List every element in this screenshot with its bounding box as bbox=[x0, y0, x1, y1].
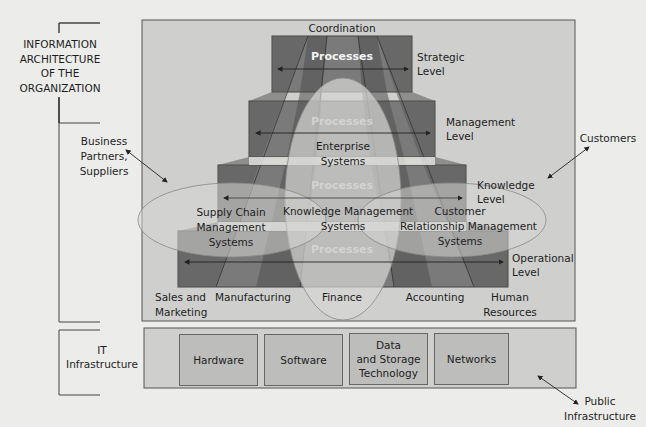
label-line: Knowledge bbox=[477, 178, 535, 192]
label-line: Operational bbox=[512, 251, 574, 265]
label-line: Systems bbox=[293, 154, 393, 169]
supply-chain-systems-label: Supply Chain Management Systems bbox=[181, 205, 281, 250]
label-line: Systems bbox=[181, 235, 281, 250]
public-infrastructure-label: Public Infrastructure bbox=[560, 394, 640, 424]
label-line: OF THE bbox=[8, 66, 112, 81]
infra-hardware: Hardware bbox=[179, 334, 258, 386]
label-line: Data bbox=[376, 338, 401, 352]
bracket-middle bbox=[59, 98, 100, 123]
functional-area-human-resources: Human Resources bbox=[475, 290, 545, 320]
label-line: Enterprise bbox=[293, 139, 393, 154]
coordination-label: Coordination bbox=[292, 21, 392, 35]
label-line: Networks bbox=[447, 352, 496, 366]
label-line: Level bbox=[512, 265, 574, 279]
label-line: Level bbox=[417, 64, 464, 78]
customers-label: Customers bbox=[578, 131, 638, 145]
label-line: Management bbox=[181, 220, 281, 235]
infra-networks: Networks bbox=[434, 333, 509, 385]
processes-label-operational: Processes bbox=[292, 243, 392, 257]
label-line: Infrastructure bbox=[560, 409, 640, 424]
processes-label-knowledge: Processes bbox=[292, 179, 392, 193]
label-line: Public bbox=[560, 394, 640, 409]
operational-level-label: Operational Level bbox=[512, 251, 574, 279]
label-line: Systems bbox=[283, 219, 403, 234]
label-line: Strategic bbox=[417, 50, 464, 64]
label-line: Suppliers bbox=[74, 164, 134, 179]
label-line: Relationship Management bbox=[400, 219, 520, 234]
label-line: Software bbox=[280, 353, 326, 367]
label-line: Sales and bbox=[155, 290, 207, 305]
label-line: Knowledge Management bbox=[283, 204, 403, 219]
label-line: Customer bbox=[400, 204, 520, 219]
label-line: ORGANIZATION bbox=[8, 81, 112, 96]
label-line: Partners, bbox=[74, 149, 134, 164]
functional-area-manufacturing: Manufacturing bbox=[208, 290, 298, 304]
strategic-level-label: Strategic Level bbox=[417, 50, 464, 78]
processes-label-strategic: Processes bbox=[292, 50, 392, 64]
label-line: Marketing bbox=[155, 305, 207, 320]
crm-systems-label: Customer Relationship Management Systems bbox=[400, 204, 520, 249]
label-line: Technology bbox=[359, 366, 418, 380]
functional-area-finance: Finance bbox=[312, 290, 372, 304]
label-line: Resources bbox=[475, 305, 545, 320]
label-line: Human bbox=[475, 290, 545, 305]
knowledge-management-systems-label: Knowledge Management Systems bbox=[283, 204, 403, 234]
label-line: Level bbox=[446, 129, 515, 143]
information-architecture-label: INFORMATION ARCHITECTURE OF THE ORGANIZA… bbox=[8, 37, 112, 95]
knowledge-level-label: Knowledge Level bbox=[477, 178, 535, 206]
label-line: Systems bbox=[400, 234, 520, 249]
processes-label-management: Processes bbox=[292, 115, 392, 129]
business-partners-label: Business Partners, Suppliers bbox=[74, 134, 134, 179]
bracket-info-arch-side bbox=[59, 98, 100, 322]
label-line: INFORMATION bbox=[8, 37, 112, 52]
functional-area-accounting: Accounting bbox=[400, 290, 470, 304]
label-line: and Storage bbox=[356, 352, 420, 366]
label-line: ARCHITECTURE bbox=[8, 52, 112, 67]
bracket-top bbox=[59, 23, 100, 33]
label-line: Management bbox=[446, 115, 515, 129]
label-line: Hardware bbox=[193, 353, 244, 367]
infra-data-storage: Data and Storage Technology bbox=[349, 333, 428, 385]
label-line: IT bbox=[62, 343, 142, 357]
label-line: Business bbox=[74, 134, 134, 149]
label-line: Infrastructure bbox=[62, 357, 142, 371]
infra-software: Software bbox=[264, 334, 343, 386]
enterprise-systems-label: Enterprise Systems bbox=[293, 139, 393, 169]
management-level-label: Management Level bbox=[446, 115, 515, 143]
label-line: Supply Chain bbox=[181, 205, 281, 220]
it-infrastructure-label: IT Infrastructure bbox=[62, 343, 142, 371]
functional-area-sales-marketing: Sales and Marketing bbox=[155, 290, 207, 320]
